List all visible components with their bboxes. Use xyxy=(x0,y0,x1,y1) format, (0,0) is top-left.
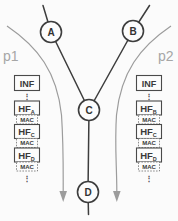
right-header-stack: INF ⋮ HFB MAC HFC MAC HFD MAC ⋮ xyxy=(137,76,162,184)
node-b-label: B xyxy=(129,26,136,37)
left-hf-a-subscript: A xyxy=(31,109,35,115)
edge-b-c xyxy=(89,31,133,110)
node-c-label: C xyxy=(85,105,92,116)
left-header-stack: INF ⋮ HFA MAC HFC MAC HFD MAC ⋮ xyxy=(15,76,40,184)
right-hf-c-subscript: C xyxy=(153,132,157,138)
left-hf-c-text: HF xyxy=(18,126,31,137)
right-hf-d-subscript: D xyxy=(153,156,157,162)
right-dots-top: ⋮ xyxy=(145,92,153,101)
node-a: A xyxy=(41,22,62,43)
right-hf-b-subscript: B xyxy=(153,109,157,115)
right-mac-d-label: MAC xyxy=(142,164,156,170)
path-label-p2: p2 xyxy=(158,48,174,64)
right-hf-d-text: HF xyxy=(140,150,153,161)
path-p1-arrowhead-icon xyxy=(59,191,67,202)
left-hf-d-text: HF xyxy=(18,150,31,161)
left-hf-c-subscript: C xyxy=(31,132,35,138)
edge-c-d xyxy=(88,110,89,192)
left-mac-c-label: MAC xyxy=(20,140,34,146)
right-mac-b-label: MAC xyxy=(142,117,156,123)
node-b: B xyxy=(123,21,144,42)
path-p2-arrowhead-icon xyxy=(113,191,121,202)
right-dots-bottom: ⋮ xyxy=(145,174,153,183)
left-dots-bottom: ⋮ xyxy=(23,174,31,183)
diagram-svg: p1 p2 A B C D INF ⋮ xyxy=(0,0,178,221)
path-label-p1: p1 xyxy=(3,48,19,64)
left-hf-a-text: HF xyxy=(18,103,31,114)
right-hf-b-text: HF xyxy=(140,103,153,114)
network-path-diagram: p1 p2 A B C D INF ⋮ xyxy=(0,0,178,221)
node-c: C xyxy=(79,100,100,121)
node-d-label: D xyxy=(84,187,91,198)
right-inf-label: INF xyxy=(142,79,157,89)
left-mac-a-label: MAC xyxy=(20,117,34,123)
node-d: D xyxy=(78,182,99,203)
node-a-label: A xyxy=(47,27,54,38)
edge-a-c xyxy=(51,32,89,110)
right-hf-c-text: HF xyxy=(140,126,153,137)
left-dots-top: ⋮ xyxy=(23,92,31,101)
left-mac-d-label: MAC xyxy=(20,164,34,170)
left-hf-d-subscript: D xyxy=(31,156,35,162)
right-mac-c-label: MAC xyxy=(142,140,156,146)
left-inf-label: INF xyxy=(20,79,35,89)
